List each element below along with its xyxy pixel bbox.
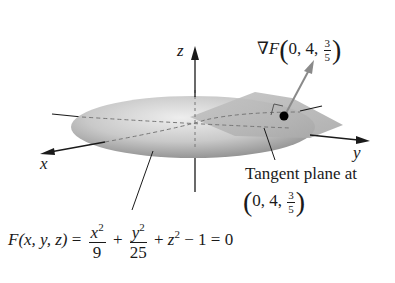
tangent-z-fraction: 35	[287, 190, 295, 215]
term-x-fraction: x2 9	[89, 222, 106, 261]
ellipsoid-tangent-plane-figure: z x y ∇F(0, 4, 35) Tangent plane at (0, …	[0, 0, 395, 283]
x-axis-back	[52, 114, 82, 117]
gradient-label: ∇F(0, 4, 35)	[257, 36, 341, 64]
gradient-z-fraction: 35	[324, 38, 332, 63]
tangent-plane-label: Tangent plane at	[245, 165, 357, 182]
y-axis-label: y	[353, 144, 361, 161]
x-axis-label: x	[40, 155, 48, 172]
tangency-point	[280, 112, 289, 121]
term-y-fraction: y2 25	[130, 222, 147, 261]
z-axis-arrowhead	[191, 46, 199, 60]
surface-leader	[132, 151, 153, 210]
y-axis	[310, 135, 358, 140]
surface-equation: F(x, y, z) = x2 9 + y2 25 + z2 − 1 = 0	[8, 222, 233, 261]
tangent-point-label: (0, 4, 35)	[243, 188, 305, 216]
term-z: z2	[168, 230, 180, 249]
x-axis	[50, 142, 105, 152]
z-axis-label: z	[177, 42, 184, 59]
gradient-symbol: ∇F	[257, 39, 279, 58]
